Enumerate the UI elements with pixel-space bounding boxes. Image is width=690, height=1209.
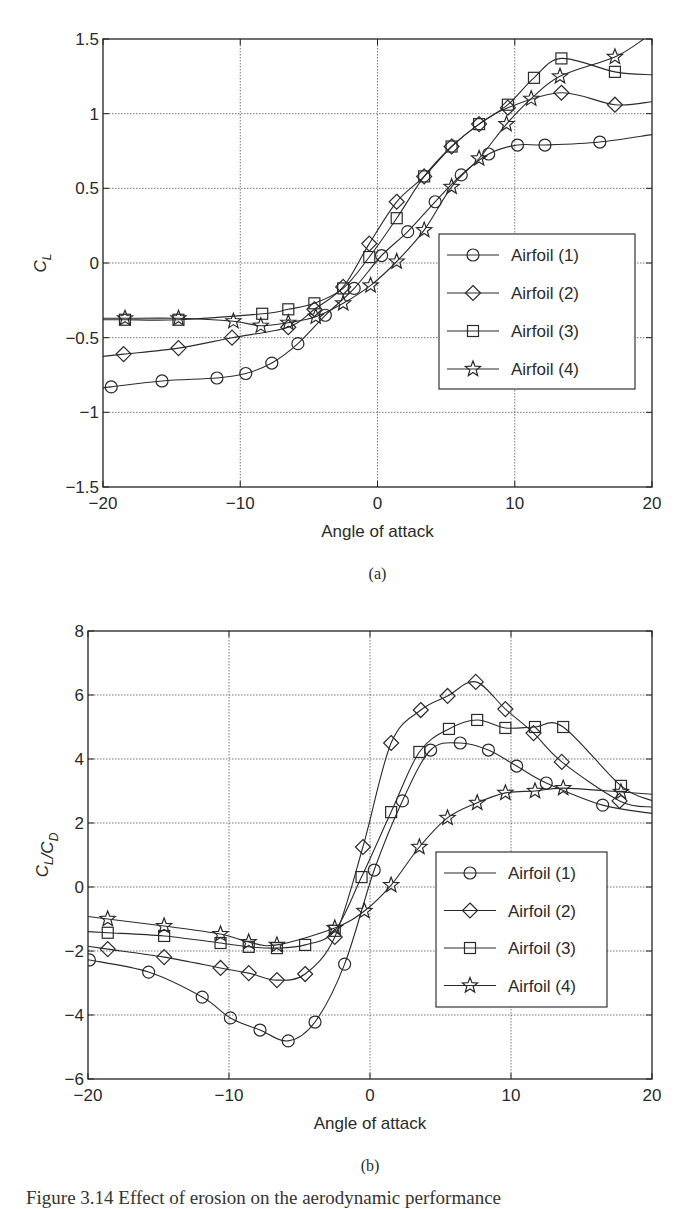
y-tick-label: 1.5 [75, 30, 99, 49]
legend-label: Airfoil (4) [511, 360, 579, 379]
y-tick-label: 0.5 [75, 179, 99, 198]
legend-label: Airfoil (2) [511, 284, 579, 303]
x-tick-label: 20 [643, 1086, 662, 1105]
x-tick-label: −10 [215, 1086, 244, 1105]
x-axis-label: Angle of attack [314, 1114, 427, 1133]
x-tick-label: 0 [373, 494, 382, 513]
y-tick-label: 6 [75, 686, 84, 705]
star-marker-icon [607, 49, 622, 64]
y-tick-label: 2 [75, 814, 84, 833]
star-marker-icon [336, 295, 351, 310]
y-tick-label: −2 [65, 942, 84, 961]
x-tick-label: 10 [502, 1086, 521, 1105]
star-marker-icon [253, 318, 268, 333]
y-tick-label: −1 [80, 403, 99, 422]
legend-label: Airfoil (1) [508, 864, 576, 883]
x-tick-label: −10 [226, 494, 255, 513]
y-tick-label: −1.5 [65, 478, 99, 497]
legend-label: Airfoil (1) [511, 246, 579, 265]
figure-caption: Figure 3.14 Effect of erosion on the aer… [26, 1187, 501, 1209]
x-tick-label: 0 [365, 1086, 374, 1105]
y-tick-label: −4 [65, 1006, 84, 1025]
panel-label: (b) [361, 1157, 380, 1175]
legend-label: Airfoil (3) [511, 322, 579, 341]
y-axis-label: CL/CD [33, 832, 61, 877]
y-tick-label: 4 [75, 750, 84, 769]
chart-clcd-vs-angle: −20−1001020−6−4−202468Angle of attackCL/… [33, 622, 661, 1175]
y-axis-label: CL [31, 254, 54, 273]
legend-label: Airfoil (3) [508, 939, 576, 958]
legend-label: Airfoil (2) [508, 902, 576, 921]
x-tick-label: 20 [643, 494, 662, 513]
y-tick-label: 1 [90, 105, 99, 124]
star-marker-icon [552, 68, 567, 83]
x-axis-label: Angle of attack [321, 522, 434, 541]
star-marker-icon [100, 911, 115, 926]
legend: Airfoil (1)Airfoil (2)Airfoil (3)Airfoil… [436, 852, 607, 1007]
panel-label: (a) [369, 565, 387, 583]
star-marker-icon [470, 795, 485, 810]
chart-cl-vs-angle: −20−1001020−1.5−1−0.500.511.5Angle of at… [31, 30, 661, 583]
legend-label: Airfoil (4) [508, 977, 576, 996]
y-tick-label: 8 [75, 622, 84, 641]
y-tick-label: 0 [75, 878, 84, 897]
y-tick-label: 0 [90, 254, 99, 273]
x-tick-label: 10 [505, 494, 524, 513]
y-tick-label: −6 [65, 1070, 84, 1089]
y-tick-label: −0.5 [65, 329, 99, 348]
legend: Airfoil (1)Airfoil (2)Airfoil (3)Airfoil… [439, 234, 635, 389]
